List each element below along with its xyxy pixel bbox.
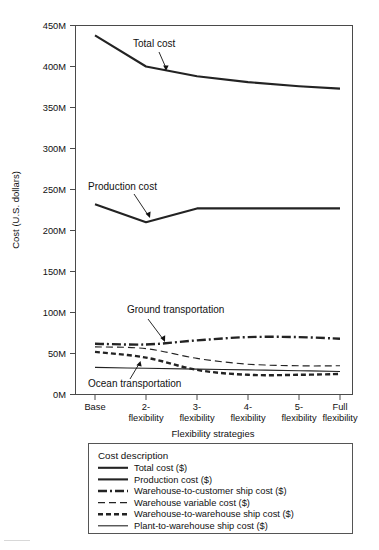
annotation-total-cost: Total cost [133, 38, 175, 71]
x-tick-label-base-line1: Base [84, 402, 105, 412]
annotation-ground-transportation: Ground transportation [127, 304, 224, 342]
legend-items: Total cost ($)Production cost ($)Warehou… [98, 463, 294, 531]
y-tick-label-400: 400M [43, 62, 66, 72]
annotation-arrow-ocean-transportation [130, 364, 139, 379]
y-axis: 450M 400M 350M 300M 250M 200M 150M 100M … [43, 21, 76, 400]
x-tick-label-4flex-line2: flexibility [230, 413, 265, 423]
x-tick-label-2flex-line1: 2- [142, 402, 150, 412]
y-tick-label-50: 50M [48, 349, 66, 359]
annotation-label-production-cost: Production cost [88, 181, 157, 192]
x-tick-label-fullflex-line2: flexibility [322, 413, 357, 423]
y-tick-label-200: 200M [43, 226, 66, 236]
series-line-2 [95, 204, 340, 222]
y-tick-label-300: 300M [43, 144, 66, 154]
cost-flexibility-line-chart: 450M 400M 350M 300M 250M 200M 150M 100M … [0, 0, 379, 550]
y-tick-label-450: 450M [43, 21, 66, 31]
y-tick-label-0: 0M [53, 390, 66, 400]
annotation-label-total-cost: Total cost [133, 38, 175, 49]
x-axis-title: Flexibility strategies [172, 428, 255, 439]
x-axis: Base 2- flexibility 3- flexibility 4- fl… [84, 395, 358, 424]
annotation-ocean-transportation: Ocean transportation [88, 361, 181, 389]
legend-label-5: Warehouse-to-warehouse ship cost ($) [134, 509, 294, 519]
series-line-5 [95, 352, 340, 375]
series-line-1 [95, 35, 340, 88]
y-axis-title: Cost (U.S. dollars) [10, 171, 21, 249]
annotation-arrow-production-cost [134, 194, 148, 215]
x-tick-label-2flex-line2: flexibility [128, 413, 163, 423]
annotation-production-cost: Production cost [88, 181, 157, 218]
y-tick-label-350: 350M [43, 103, 66, 113]
legend-label-1: Total cost ($) [134, 463, 187, 473]
annotation-label-ground-transportation: Ground transportation [127, 304, 224, 315]
legend-label-4: Warehouse variable cost ($) [134, 498, 250, 508]
legend-label-3: Warehouse-to-customer ship cost ($) [134, 486, 287, 496]
legend-title: Cost description [98, 450, 168, 461]
y-tick-label-250: 250M [43, 185, 66, 195]
figure-caption-remnant [4, 540, 30, 541]
series-line-6 [95, 367, 340, 371]
legend-label-6: Plant-to-warehouse ship cost ($) [134, 521, 268, 531]
x-tick-label-3flex-line1: 3- [193, 402, 201, 412]
annotation-arrowhead-ocean-transportation [136, 361, 141, 366]
annotation-arrow-ground-transportation [148, 319, 163, 339]
x-tick-label-5flex-line2: flexibility [281, 413, 316, 423]
x-tick-label-3flex-line2: flexibility [179, 413, 214, 423]
x-tick-label-4flex-line1: 4- [244, 402, 252, 412]
y-tick-label-150: 150M [43, 267, 66, 277]
x-tick-label-fullflex-line1: Full [333, 402, 348, 412]
series-line-4 [95, 347, 340, 366]
annotation-label-ocean-transportation: Ocean transportation [88, 378, 181, 389]
series-layer [95, 35, 340, 375]
y-tick-label-100: 100M [43, 308, 66, 318]
legend-label-2: Production cost ($) [134, 475, 212, 485]
x-tick-label-5flex-line1: 5- [295, 402, 303, 412]
figure-container: 450M 400M 350M 300M 250M 200M 150M 100M … [0, 0, 379, 550]
legend: Cost description Total cost ($)Productio… [89, 444, 353, 534]
series-line-3 [95, 337, 340, 345]
